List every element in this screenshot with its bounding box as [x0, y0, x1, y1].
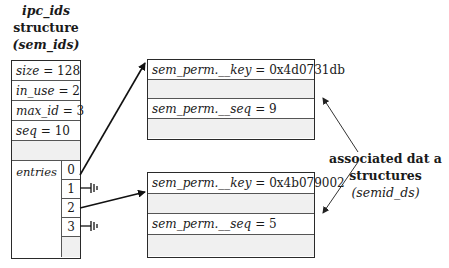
- label-arrow-to-box-2: [323, 162, 358, 213]
- pointer-arrow-entry-2: [80, 192, 145, 208]
- label-arrow-to-box-1: [323, 98, 358, 152]
- null-pointer-icon: [80, 183, 97, 193]
- pointer-arrow-entry-0: [80, 63, 145, 175]
- connector-overlay: [0, 0, 449, 268]
- null-pointer-icon: [80, 221, 97, 231]
